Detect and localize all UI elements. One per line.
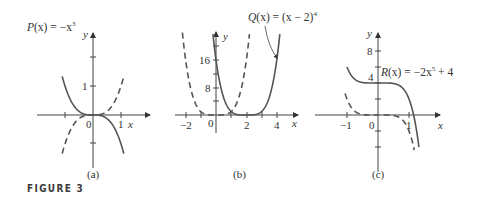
- x-axis-label: x: [291, 117, 297, 129]
- curve-q-solid: [213, 34, 280, 115]
- y-axis-label: y: [82, 28, 88, 40]
- equation-r: R(x) = −2x5 + 4: [380, 65, 453, 79]
- x-tick-2: 2: [244, 119, 250, 131]
- equation-q: Q(x) = (x − 2)4: [248, 10, 317, 24]
- x-tick-neg2: −2: [180, 119, 192, 131]
- x-tick-0: 0: [369, 119, 375, 131]
- panel-c: −1 0 1 x 8 4 y R(x) = −2x5 + 4 (c): [315, 27, 453, 181]
- x-tick-4: 4: [274, 119, 280, 131]
- x-tick-0: 0: [208, 117, 214, 129]
- caption-a: (a): [87, 168, 100, 181]
- y-axis-label: y: [366, 27, 372, 39]
- y-tick-16: 16: [199, 54, 211, 66]
- x-axis-label: x: [127, 118, 133, 130]
- panel-a: 0 1 x 1 y P(x) = −x3 (a): [26, 20, 150, 181]
- y-tick-8: 8: [367, 45, 373, 57]
- equation-p: P(x) = −x3: [26, 20, 76, 34]
- x-axis-label: x: [437, 119, 443, 131]
- caption-c: (c): [372, 168, 385, 181]
- curve-r-solid: [347, 67, 419, 147]
- x-tick-neg1: −1: [340, 119, 352, 131]
- figure-label: FIGURE 3: [27, 182, 84, 194]
- y-tick-1: 1: [82, 80, 88, 92]
- figure-3: 0 1 x 1 y P(x) = −x3 (a) −2 0 2 4 x: [0, 0, 484, 201]
- y-tick-4: 4: [368, 71, 374, 83]
- x-tick-1: 1: [118, 118, 124, 130]
- y-tick-8: 8: [205, 82, 211, 94]
- annotation-pointer-arrow: [265, 26, 277, 58]
- y-axis-label: y: [222, 30, 228, 42]
- x-tick-0: 0: [86, 118, 92, 130]
- x-tick-1: 1: [406, 119, 412, 131]
- panel-b: −2 0 2 4 x 8 16 y Q(x) = (x − 2)4 (b): [175, 10, 317, 181]
- curve-neg2x5-dashed: [345, 94, 414, 150]
- caption-b: (b): [233, 168, 246, 181]
